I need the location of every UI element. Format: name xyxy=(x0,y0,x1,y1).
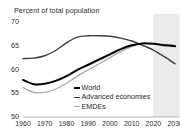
x-tick-label: 1980 xyxy=(56,120,78,128)
x-tick-label: 1990 xyxy=(77,120,99,128)
legend-label: EMDEs xyxy=(82,102,106,111)
x-tick-label: 2000 xyxy=(99,120,121,128)
chart-legend: WorldAdvanced economiesEMDEs xyxy=(74,83,150,111)
y-tick-label: 60 xyxy=(3,66,19,74)
projection-shading xyxy=(153,14,179,117)
legend-line-icon xyxy=(74,97,80,98)
x-tick-label: 2030 xyxy=(164,120,180,128)
legend-item-emdes[interactable]: EMDEs xyxy=(74,102,150,111)
legend-item-advanced-economies[interactable]: Advanced economies xyxy=(74,92,150,101)
x-tick-label: 1960 xyxy=(12,120,34,128)
chart-plot-area xyxy=(0,0,180,138)
legend-line-icon xyxy=(74,106,80,107)
x-tick-label: 2020 xyxy=(142,120,164,128)
legend-label: World xyxy=(82,83,101,92)
legend-line-icon xyxy=(74,87,80,89)
y-tick-label: 70 xyxy=(3,18,19,26)
legend-label: Advanced economies xyxy=(82,92,151,101)
y-tick-label: 65 xyxy=(3,42,19,50)
y-tick-label: 55 xyxy=(3,89,19,97)
chart-figure: Percent of total population 7065605550 1… xyxy=(0,0,180,138)
x-tick-label: 2010 xyxy=(121,120,143,128)
legend-item-world[interactable]: World xyxy=(74,83,150,92)
x-tick-label: 1970 xyxy=(34,120,56,128)
